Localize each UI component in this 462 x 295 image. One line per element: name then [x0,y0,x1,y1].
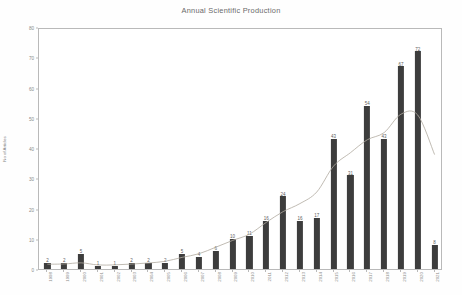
x-tick-label: 2015 [334,272,339,282]
x-tick-label: 1998 [48,272,53,282]
x-tick-mark [299,269,300,272]
x-tick-mark [46,269,47,272]
x-tick-label: 2001 [99,272,104,282]
x-tick-mark [114,269,115,272]
bar-value-label: 54 [365,101,370,106]
x-tick-mark [215,269,216,272]
y-axis-title: No of Articles [2,119,7,179]
bar [179,254,185,269]
y-tick-label: 60 [29,86,34,91]
bar-value-label: 1 [113,261,116,266]
bar [415,51,421,269]
x-tick-label: 2006 [183,272,188,282]
bar-value-label: 72 [415,47,420,52]
x-tick-label: 2003 [132,272,137,282]
bar-value-label: 67 [398,62,403,67]
bar [431,245,437,269]
y-axis: No of Articles 01020304050607080 [0,28,38,270]
bar-value-label: 24 [281,192,286,197]
bar [314,218,320,269]
x-tick-label: 2020 [419,272,424,282]
y-tick-label: 30 [29,177,34,182]
y-tick-label: 20 [29,207,34,212]
x-tick-label: 2000 [82,272,87,282]
bar-value-label: 2 [147,258,150,263]
x-tick-label: 2004 [149,272,154,282]
x-tick-label: 2017 [368,272,373,282]
x-tick-label: 2002 [116,272,121,282]
x-tick-label: 2005 [166,272,171,282]
bar [78,254,84,269]
x-axis: 1998199920002001200220032004200520062007… [38,270,442,295]
x-tick-mark [383,269,384,272]
bar-value-label: 43 [331,134,336,139]
plot-inner: 225112225461011162416174331544367728 [39,29,441,269]
bar-value-label: 43 [382,134,387,139]
bar-value-label: 31 [348,171,353,176]
x-tick-mark [349,269,350,272]
x-tick-mark [434,269,435,272]
x-tick-label: 2014 [318,272,323,282]
bar-value-label: 5 [181,249,184,254]
bar [381,139,387,269]
x-tick-mark [232,269,233,272]
bar [330,139,336,269]
x-tick-label: 2018 [385,272,390,282]
bar-value-label: 6 [214,246,217,251]
bar [398,66,404,269]
bar-value-label: 16 [297,216,302,221]
y-tick-label: 50 [29,116,34,121]
x-tick-mark [282,269,283,272]
y-tick-label: 0 [31,268,34,273]
bar-value-label: 2 [46,258,49,263]
y-tick-label: 80 [29,26,34,31]
bar [297,221,303,269]
bar [196,257,202,269]
chart-title: Annual Scientific Production [0,6,462,15]
bar-value-label: 11 [247,231,252,236]
bar [213,251,219,269]
y-tick-label: 40 [29,147,34,152]
bar-value-label: 2 [164,258,167,263]
x-tick-mark [97,269,98,272]
x-tick-mark [63,269,64,272]
bar [61,263,67,269]
x-tick-mark [131,269,132,272]
x-tick-mark [248,269,249,272]
bar [128,263,134,269]
x-tick-mark [333,269,334,272]
bar-value-label: 8 [433,240,436,245]
y-tick-label: 10 [29,237,34,242]
bar [263,221,269,269]
bar [347,175,353,269]
x-tick-label: 2021 [435,272,440,282]
x-tick-label: 2013 [301,272,306,282]
x-tick-mark [316,269,317,272]
x-tick-label: 2011 [267,272,272,281]
bar [246,236,252,269]
x-tick-label: 2010 [250,272,255,282]
x-tick-mark [366,269,367,272]
bar-value-label: 2 [63,258,66,263]
bar-value-label: 17 [314,213,319,218]
bar-value-label: 2 [130,258,133,263]
x-tick-label: 2009 [233,272,238,282]
x-tick-label: 2007 [200,272,205,282]
plot-area: 225112225461011162416174331544367728 [38,28,442,270]
bar [44,263,50,269]
x-tick-mark [198,269,199,272]
bar [364,106,370,269]
bar [145,263,151,269]
x-tick-mark [181,269,182,272]
x-tick-mark [164,269,165,272]
x-tick-mark [417,269,418,272]
x-tick-label: 2008 [217,272,222,282]
x-tick-label: 2012 [284,272,289,282]
x-tick-mark [265,269,266,272]
bar [229,239,235,269]
bar-value-label: 1 [97,261,100,266]
x-tick-label: 1999 [65,272,70,282]
x-tick-mark [80,269,81,272]
bar [280,196,286,269]
bar-value-label: 4 [198,252,201,257]
